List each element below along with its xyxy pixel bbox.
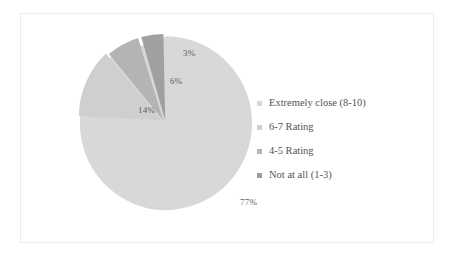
legend-item-label: 6-7 Rating xyxy=(269,122,314,133)
legend-item-label: Not at all (1-3) xyxy=(269,170,332,181)
pie-value-label-4-5-rating: 6% xyxy=(170,77,182,86)
legend-item-4-5-rating[interactable]: 4-5 Rating xyxy=(257,139,422,163)
legend-swatch-icon xyxy=(257,149,262,154)
pie-value-label-not-at-all: 3% xyxy=(183,49,195,58)
legend-item-6-7-rating[interactable]: 6-7 Rating xyxy=(257,115,422,139)
legend-swatch-icon xyxy=(257,173,262,178)
pie-value-label-extremely-close: 77% xyxy=(240,198,257,207)
legend-item-not-at-all[interactable]: Not at all (1-3) xyxy=(257,163,422,187)
legend-swatch-icon xyxy=(257,125,262,130)
legend-swatch-icon xyxy=(257,101,262,106)
chart-legend: Extremely close (8-10) 6-7 Rating 4-5 Ra… xyxy=(257,91,422,187)
legend-item-label: Extremely close (8-10) xyxy=(269,98,366,109)
chart-canvas: 3% 6% 14% 77% Extremely close (8-10) 6-7… xyxy=(0,0,456,261)
pie-value-label-6-7-rating: 14% xyxy=(138,106,155,115)
legend-item-label: 4-5 Rating xyxy=(269,146,314,157)
pie-chart: 3% 6% 14% 77% xyxy=(58,22,273,227)
legend-item-extremely-close[interactable]: Extremely close (8-10) xyxy=(257,91,422,115)
